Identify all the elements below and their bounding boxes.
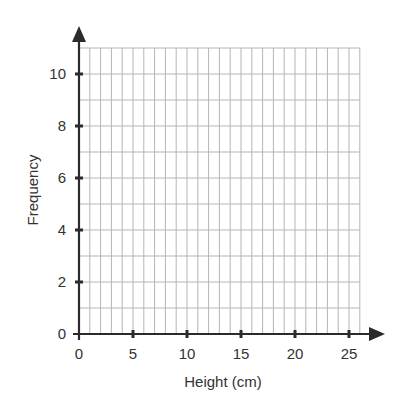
y-tick xyxy=(75,229,83,232)
x-tick-label: 15 xyxy=(233,345,250,362)
x-tick xyxy=(240,330,243,338)
y-axis-title: Frequency xyxy=(24,154,41,225)
y-tick-label: 6 xyxy=(58,169,66,186)
y-tick-label: 10 xyxy=(49,65,66,82)
x-tick-label: 0 xyxy=(75,345,83,362)
x-axis-arrow-icon xyxy=(369,327,385,341)
y-tick xyxy=(75,281,83,284)
x-axis-title: Height (cm) xyxy=(184,373,262,390)
x-tick xyxy=(132,330,135,338)
y-tick xyxy=(75,177,83,180)
x-tick xyxy=(294,330,297,338)
grid-lines xyxy=(79,48,360,334)
y-tick-label: 2 xyxy=(58,273,66,290)
x-tick-label: 20 xyxy=(287,345,304,362)
y-tick-label: 4 xyxy=(58,221,66,238)
tick-labels: 05101520250246810 xyxy=(49,65,357,362)
x-tick-label: 25 xyxy=(341,345,358,362)
x-tick-label: 10 xyxy=(179,345,196,362)
y-axis-arrow-icon xyxy=(72,26,86,42)
x-tick xyxy=(186,330,189,338)
ticks xyxy=(75,73,351,339)
y-tick-label: 8 xyxy=(58,117,66,134)
chart: 05101520250246810 Height (cm) Frequency xyxy=(0,0,407,414)
y-tick xyxy=(75,125,83,128)
x-tick-label: 5 xyxy=(129,345,137,362)
y-tick-label: 0 xyxy=(58,325,66,342)
x-tick xyxy=(348,330,351,338)
y-tick xyxy=(75,73,83,76)
